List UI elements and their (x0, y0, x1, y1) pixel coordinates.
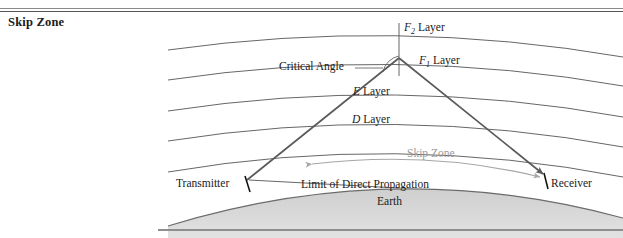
label-f1-symbol: F (419, 54, 426, 66)
label-e-symbol: E (353, 85, 360, 97)
label-e-layer: E Layer (353, 85, 390, 97)
label-critical-angle: Critical Angle (279, 60, 344, 72)
receiver-marker (544, 173, 548, 189)
label-d-text: Layer (363, 113, 390, 125)
label-transmitter: Transmitter (176, 177, 229, 189)
label-f2-subscript: 2 (411, 27, 415, 36)
label-f1-layer: F1 Layer (419, 54, 460, 69)
arc-f2-f1-boundary (168, 64, 623, 86)
label-limit-of-direct-propagation: Limit of Direct Propagation (301, 178, 429, 190)
label-f1-subscript: 1 (426, 60, 430, 69)
label-d-layer: D Layer (352, 113, 390, 125)
label-d-symbol: D (352, 113, 360, 125)
label-earth: Earth (377, 195, 402, 207)
skip-zone-arrow (312, 159, 540, 177)
arc-f2-top (168, 36, 623, 57)
label-receiver: Receiver (551, 177, 592, 189)
label-skip-zone: Skip Zone (407, 147, 455, 159)
arc-f1-e-boundary (168, 95, 623, 117)
skip-zone-diagram (0, 0, 623, 238)
figure-container: Skip Zone (0, 0, 623, 238)
label-e-text: Layer (363, 85, 390, 97)
label-f2-symbol: F (404, 21, 411, 33)
label-f1-text: Layer (433, 54, 460, 66)
label-f2-layer: F2 Layer (404, 21, 445, 36)
arc-d-bottom (168, 154, 623, 177)
bottom-rule (158, 229, 623, 231)
label-f2-text: Layer (418, 21, 445, 33)
arc-e-d-boundary (168, 124, 623, 147)
